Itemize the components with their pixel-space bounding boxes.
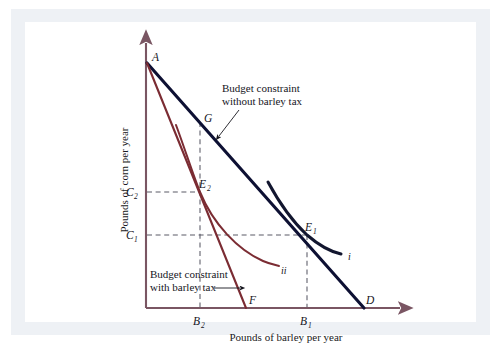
point-label-D: D bbox=[365, 294, 375, 306]
point-label-G: G bbox=[204, 112, 213, 124]
axis-label-B1: B 1 bbox=[300, 315, 312, 330]
axis-label-B1-base: B bbox=[300, 315, 307, 327]
figure-root: A G D F E 1 E 2 C 2 C 1 B 2 bbox=[0, 0, 501, 353]
indifference-curve-i bbox=[268, 182, 341, 254]
axis-label-B2-base: B bbox=[193, 315, 200, 327]
annotation-without-tax-arrow bbox=[219, 110, 239, 136]
annotation-without-tax-line2: without barley tax bbox=[222, 95, 303, 107]
point-label-E1-sub: 1 bbox=[313, 227, 317, 236]
x-axis-title: Pounds of barley per year bbox=[229, 331, 342, 343]
annotation-with-tax-line1: Budget constraint bbox=[150, 268, 228, 280]
axis-label-C1-sub: 1 bbox=[134, 235, 138, 244]
axis-label-B2-sub: 2 bbox=[201, 321, 205, 330]
curve-label-i: i bbox=[348, 251, 351, 262]
point-label-E2-sub: 2 bbox=[207, 184, 211, 193]
point-label-F: F bbox=[248, 294, 257, 306]
curve-label-ii: ii bbox=[281, 265, 287, 276]
annotation-without-tax: Budget constraint without barley tax bbox=[219, 82, 303, 136]
annotation-with-tax: Budget constraint with barley tax bbox=[150, 268, 240, 293]
point-label-A: A bbox=[151, 51, 160, 63]
point-label-E2-base: E bbox=[198, 178, 206, 190]
annotation-with-tax-line2: with barley tax bbox=[150, 281, 216, 293]
axis-label-C2-sub: 2 bbox=[134, 192, 138, 201]
annotation-without-tax-line1: Budget constraint bbox=[222, 82, 300, 94]
axis-label-B1-sub: 1 bbox=[308, 321, 312, 330]
point-label-E1-base: E bbox=[304, 221, 312, 233]
y-axis-title: Pounds of corn per year bbox=[118, 127, 130, 232]
economics-diagram: A G D F E 1 E 2 C 2 C 1 B 2 bbox=[0, 0, 501, 353]
axis-label-B2: B 2 bbox=[193, 315, 205, 330]
